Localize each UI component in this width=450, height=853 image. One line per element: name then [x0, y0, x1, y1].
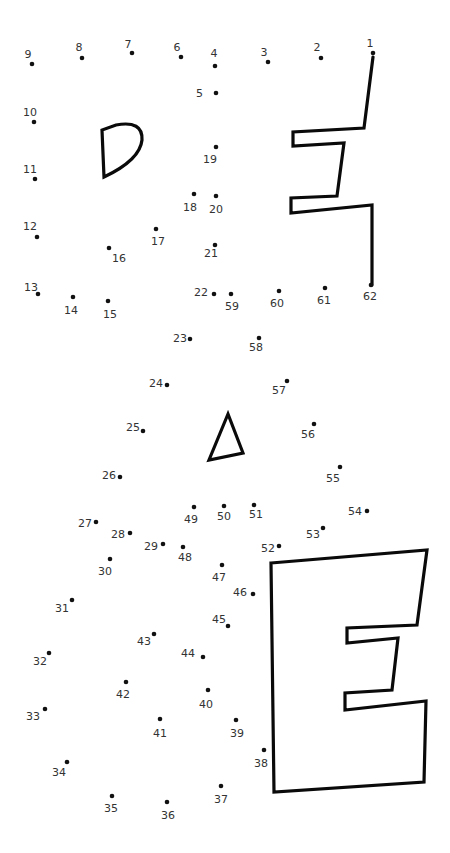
dot-point[interactable]: [124, 680, 129, 685]
dot-32[interactable]: 32: [33, 651, 51, 668]
dot-point[interactable]: [212, 292, 217, 297]
dot-point[interactable]: [277, 544, 282, 549]
dot-42[interactable]: 42: [116, 680, 130, 701]
dot-34[interactable]: 34: [52, 760, 69, 779]
dot-25[interactable]: 25: [126, 421, 145, 434]
dot-15[interactable]: 15: [103, 299, 117, 321]
dot-1[interactable]: 1: [367, 37, 376, 55]
dot-point[interactable]: [94, 520, 99, 525]
dot-point[interactable]: [32, 120, 37, 125]
dot-9[interactable]: 9: [25, 48, 35, 66]
dot-point[interactable]: [214, 145, 219, 150]
dot-50[interactable]: 50: [217, 504, 231, 523]
dot-point[interactable]: [285, 379, 290, 384]
dot-10[interactable]: 10: [23, 106, 37, 124]
dot-18[interactable]: 18: [183, 192, 197, 214]
dot-29[interactable]: 29: [144, 540, 165, 553]
dot-8[interactable]: 8: [76, 41, 85, 60]
dot-point[interactable]: [201, 655, 206, 660]
dot-61[interactable]: 61: [317, 286, 331, 307]
dot-point[interactable]: [222, 504, 227, 509]
dot-16[interactable]: 16: [107, 246, 126, 265]
dot-point[interactable]: [371, 51, 376, 56]
dot-24[interactable]: 24: [149, 377, 169, 390]
dot-58[interactable]: 58: [249, 336, 263, 354]
dot-49[interactable]: 49: [184, 505, 198, 526]
dot-point[interactable]: [154, 227, 159, 232]
dot-point[interactable]: [251, 592, 256, 597]
dot-point[interactable]: [213, 64, 218, 69]
dot-60[interactable]: 60: [270, 289, 284, 310]
dot-30[interactable]: 30: [98, 557, 112, 578]
dot-point[interactable]: [71, 295, 76, 300]
dot-26[interactable]: 26: [102, 469, 122, 482]
dot-point[interactable]: [181, 545, 186, 550]
dot-point[interactable]: [192, 505, 197, 510]
dot-point[interactable]: [30, 62, 35, 67]
dot-62[interactable]: 62: [363, 283, 377, 303]
dot-point[interactable]: [188, 337, 193, 342]
dot-point[interactable]: [206, 688, 211, 693]
dot-point[interactable]: [323, 286, 328, 291]
dot-point[interactable]: [118, 475, 123, 480]
dot-57[interactable]: 57: [272, 379, 289, 397]
dot-point[interactable]: [141, 429, 146, 434]
dot-11[interactable]: 11: [23, 163, 37, 181]
dot-point[interactable]: [165, 383, 170, 388]
dot-54[interactable]: 54: [348, 505, 369, 518]
dot-point[interactable]: [70, 598, 75, 603]
dot-point[interactable]: [220, 563, 225, 568]
dot-47[interactable]: 47: [212, 563, 226, 584]
dot-point[interactable]: [226, 624, 231, 629]
dot-point[interactable]: [252, 503, 257, 508]
dot-point[interactable]: [214, 91, 219, 96]
dot-point[interactable]: [214, 194, 219, 199]
dot-27[interactable]: 27: [78, 517, 98, 530]
dot-point[interactable]: [192, 192, 197, 197]
dot-point[interactable]: [106, 299, 111, 304]
dot-23[interactable]: 23: [173, 332, 192, 345]
dot-point[interactable]: [229, 292, 234, 297]
dot-51[interactable]: 51: [249, 503, 263, 521]
dot-point[interactable]: [130, 51, 135, 56]
dot-28[interactable]: 28: [111, 528, 132, 541]
dot-14[interactable]: 14: [64, 295, 78, 317]
dot-41[interactable]: 41: [153, 717, 167, 740]
dot-43[interactable]: 43: [137, 632, 156, 648]
dot-point[interactable]: [321, 526, 326, 531]
dot-38[interactable]: 38: [254, 748, 268, 770]
dot-5[interactable]: 5: [196, 87, 218, 100]
dot-point[interactable]: [152, 632, 157, 637]
dot-48[interactable]: 48: [178, 545, 192, 564]
dot-46[interactable]: 46: [233, 586, 255, 599]
dot-point[interactable]: [158, 717, 163, 722]
dot-39[interactable]: 39: [230, 718, 244, 740]
dot-22[interactable]: 22: [194, 286, 216, 299]
dot-point[interactable]: [161, 542, 166, 547]
dot-4[interactable]: 4: [211, 47, 218, 68]
dot-40[interactable]: 40: [199, 688, 213, 711]
dot-point[interactable]: [80, 56, 85, 61]
dot-point[interactable]: [312, 422, 317, 427]
dot-point[interactable]: [365, 509, 370, 514]
dot-point[interactable]: [165, 800, 170, 805]
dot-point[interactable]: [262, 748, 267, 753]
dot-13[interactable]: 13: [24, 281, 40, 296]
dot-36[interactable]: 36: [161, 800, 175, 822]
dot-55[interactable]: 55: [326, 465, 342, 485]
dot-point[interactable]: [338, 465, 343, 470]
dot-44[interactable]: 44: [181, 647, 205, 660]
dot-37[interactable]: 37: [214, 784, 228, 806]
dot-53[interactable]: 53: [306, 526, 325, 541]
dot-point[interactable]: [110, 794, 115, 799]
dot-point[interactable]: [128, 531, 133, 536]
dot-59[interactable]: 59: [225, 292, 239, 313]
dot-point[interactable]: [219, 784, 224, 789]
dot-52[interactable]: 52: [261, 542, 281, 555]
dot-point[interactable]: [108, 557, 113, 562]
dot-12[interactable]: 12: [23, 220, 39, 239]
dot-point[interactable]: [43, 707, 48, 712]
dot-point[interactable]: [369, 283, 374, 288]
dot-point[interactable]: [179, 55, 184, 60]
dot-21[interactable]: 21: [204, 243, 218, 260]
